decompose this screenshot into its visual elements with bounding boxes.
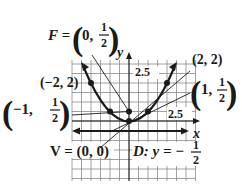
svg-text:): )	[59, 94, 70, 132]
point-2-2	[164, 80, 170, 86]
label-neg2-2: (−2, 2)	[40, 75, 79, 91]
svg-text:1,: 1,	[201, 81, 213, 97]
label-1-half: ( 1, 1 2 )	[190, 74, 237, 112]
svg-text:1: 1	[219, 75, 225, 89]
svg-text:0,: 0,	[82, 27, 94, 43]
svg-text:2: 2	[193, 153, 199, 167]
svg-text:1: 1	[52, 95, 58, 109]
svg-text:(: (	[190, 74, 201, 112]
focus-point	[126, 109, 132, 115]
label-neg1-half: ( −1, 1 2 )	[2, 94, 70, 132]
svg-text:1: 1	[101, 20, 107, 34]
svg-text:): )	[108, 20, 119, 58]
svg-text:2: 2	[101, 36, 107, 50]
vertex-label: V = (0, 0)	[50, 143, 109, 160]
directrix-line	[72, 128, 189, 135]
parabola-diagram: 2.5 2.5 x y F = ( 0, 1 2 ) (−2, 2) (2, 2…	[0, 0, 242, 192]
focus-label: F = ( 0, 1 2 )	[47, 20, 119, 58]
point-1-half	[145, 109, 151, 115]
point-neg1-half	[107, 109, 113, 115]
svg-text:2: 2	[52, 111, 58, 125]
tick-x-label: 2.5	[168, 107, 183, 121]
svg-text:1: 1	[193, 138, 199, 152]
svg-text:(: (	[2, 94, 13, 132]
svg-text:F =: F =	[47, 27, 70, 43]
tick-y-label: 2.5	[135, 65, 150, 79]
vertex-point	[126, 118, 132, 124]
x-axis-arrow	[193, 118, 200, 124]
point-neg2-2	[88, 80, 94, 86]
svg-text:): )	[226, 74, 237, 112]
svg-text:−1,: −1,	[13, 101, 33, 117]
svg-text:2: 2	[219, 91, 225, 105]
y-axis	[126, 52, 132, 181]
label-2-2: (2, 2)	[192, 52, 223, 68]
svg-text:D: y = −: D: y = −	[132, 143, 184, 159]
